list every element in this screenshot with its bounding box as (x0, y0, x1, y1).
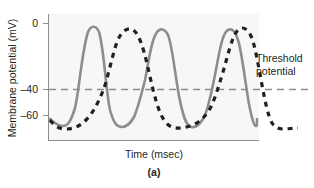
threshold-potential-annotation: Threshold potential (256, 52, 303, 77)
threshold-annotation-line2: potential (256, 65, 303, 78)
series-dashed-path (50, 28, 298, 129)
series-solid-path (50, 27, 257, 127)
panel-label: (a) (49, 166, 259, 178)
threshold-annotation-line1: Threshold (256, 52, 303, 65)
y-axis-title: Membrane potential (mV) (6, 13, 18, 143)
x-axis-title: Time (msec) (49, 148, 259, 160)
pacemaker-potential-figure: 0 –40 –60 Threshold potential Membrane p… (0, 0, 314, 188)
